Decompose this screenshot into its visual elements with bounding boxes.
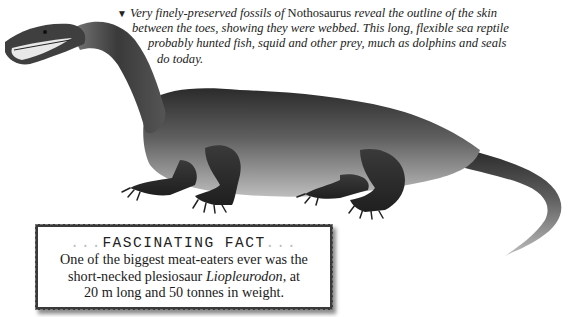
species-name: Liopleurodon xyxy=(206,268,283,284)
illustration-caption: ▼Very finely-preserved fossils of Nothos… xyxy=(117,6,537,67)
fact-body: One of the biggest meat-eaters ever was … xyxy=(38,251,330,301)
triangle-pointer-icon: ▼ xyxy=(117,8,127,19)
fact-line-2: short-necked plesiosaur Liopleurodon, at xyxy=(38,268,330,285)
tail xyxy=(465,150,561,256)
genus-name: Nothosaurus xyxy=(288,6,352,20)
caption-line-4: do today. xyxy=(117,52,537,67)
fascinating-fact-box: ...FASCINATING FACT... One of the bigges… xyxy=(35,224,333,310)
caption-line-1: ▼Very finely-preserved fossils of Nothos… xyxy=(117,6,537,21)
fact-line-3: 20 m long and 50 tonnes in weight. xyxy=(38,284,330,301)
fact-line-1: One of the biggest meat-eaters ever was … xyxy=(38,251,330,268)
fact-title: ...FASCINATING FACT... xyxy=(38,235,330,251)
caption-line-2: between the toes, showing they were webb… xyxy=(117,21,537,36)
caption-line-3: probably hunted fish, squid and other pr… xyxy=(117,36,537,51)
